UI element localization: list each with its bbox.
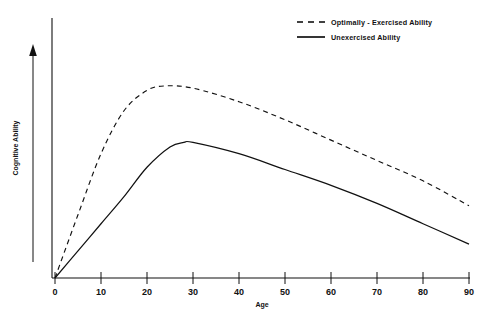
x-tick-label: 90	[464, 287, 474, 297]
x-tick-label: 20	[142, 287, 152, 297]
y-axis-title: Cognitive Ability	[12, 120, 20, 175]
x-tick-label: 80	[418, 287, 428, 297]
series-line-unexercised-ability	[55, 141, 469, 278]
x-tick-label: 10	[96, 287, 106, 297]
x-tick-label: 40	[234, 287, 244, 297]
x-tick-label: 0	[52, 287, 57, 297]
cognitive-ability-line-chart: Cognitive Ability 0 10 20 30 40 50 60 70…	[0, 0, 498, 316]
x-tick-label: 30	[188, 287, 198, 297]
x-axis-tick-labels: 0 10 20 30 40 50 60 70 80 90	[52, 287, 474, 297]
series-line-optimally-exercised-ability	[55, 86, 469, 278]
legend-label-optimally-exercised-ability: Optimally - Exercised Ability	[331, 18, 432, 27]
x-tick-label: 70	[372, 287, 382, 297]
chart-canvas: Cognitive Ability 0 10 20 30 40 50 60 70…	[0, 0, 498, 316]
x-tick-label: 50	[280, 287, 290, 297]
x-tick-label: 60	[326, 287, 336, 297]
x-axis-title: Age	[255, 301, 268, 309]
legend-label-unexercised-ability: Unexercised Ability	[331, 33, 400, 42]
chart-legend: Optimally - Exercised Ability Unexercise…	[297, 18, 432, 42]
y-axis-title-text: Cognitive Ability	[12, 120, 20, 175]
y-axis-direction-arrow	[29, 44, 37, 262]
